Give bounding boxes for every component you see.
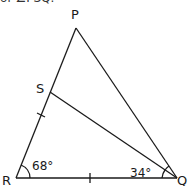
angle-label-r: 68°: [32, 159, 53, 173]
diagram-canvas: of ∠PSQ. P S R Q 68° 34°: [0, 0, 192, 186]
angle-arc-q-inner: [162, 170, 165, 178]
side-pq: [76, 28, 177, 178]
label-q: Q: [177, 173, 187, 186]
label-r: R: [2, 173, 11, 186]
angle-label-q: 34°: [130, 166, 151, 180]
triangle-diagram: P S R Q 68° 34°: [0, 0, 192, 186]
angle-arc-r: [21, 165, 30, 178]
segment-sq: [50, 92, 177, 178]
label-p: P: [71, 7, 79, 22]
question-text-cut-off: of ∠PSQ.: [0, 0, 54, 5]
angle-arc-q-outer: [165, 166, 169, 170]
label-s: S: [36, 81, 44, 96]
